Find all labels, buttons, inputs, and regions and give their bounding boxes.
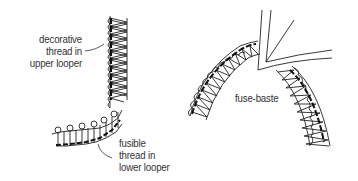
label-line: fusible <box>119 137 189 149</box>
label-fuse-baste: fuse-baste <box>235 92 278 104</box>
right-figure: fuse-baste <box>180 0 358 181</box>
left-figure: decorative thread in upper looper fusibl… <box>0 0 180 181</box>
label-fusible-thread: fusible thread in lower looper <box>119 137 189 173</box>
label-line: lower looper <box>119 161 189 173</box>
label-line: thread in <box>119 149 189 161</box>
leader-line-upper <box>85 44 104 51</box>
label-decorative-thread: decorative thread in upper looper <box>12 33 82 69</box>
leader-line-lower <box>98 144 112 158</box>
curved-stitch-illustration <box>180 0 358 181</box>
label-line: thread in <box>12 45 82 57</box>
label-line: upper looper <box>12 57 82 69</box>
label-line: decorative <box>12 33 82 45</box>
label-text: fuse-baste <box>235 92 278 104</box>
